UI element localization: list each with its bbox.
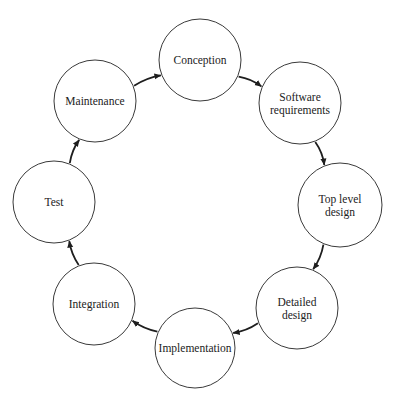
nodes: ConceptionSoftwarerequirementsTop leveld…: [13, 19, 382, 388]
software-requirements-label: Software: [279, 91, 321, 103]
implementation-label: Implementation: [159, 342, 232, 355]
top-level-design-label: Top level: [319, 193, 362, 206]
test-label: Test: [45, 196, 65, 208]
node-maintenance: Maintenance: [54, 60, 136, 142]
arrow-conception-to-software-requirements: [239, 77, 262, 87]
node-conception: Conception: [159, 19, 241, 101]
detailed-design-label: Detailed: [278, 296, 317, 308]
node-integration: Integration: [53, 263, 135, 345]
arrow-detailed-design-to-implementation: [233, 323, 258, 333]
arrow-top-level-design-to-detailed-design: [313, 245, 323, 270]
arrow-test-to-maintenance: [70, 140, 79, 163]
software-requirements-label: requirements: [270, 104, 331, 117]
node-implementation: Implementation: [155, 308, 235, 388]
arrow-software-requirements-to-top-level-design: [315, 142, 324, 165]
conception-label: Conception: [173, 54, 226, 67]
node-software-requirements: Softwarerequirements: [259, 62, 341, 144]
arrow-implementation-to-integration: [133, 321, 158, 332]
arrow-maintenance-to-conception: [134, 75, 161, 85]
life-cycle-diagram: ConceptionSoftwarerequirementsTop leveld…: [0, 0, 396, 403]
node-test: Test: [13, 161, 95, 243]
node-detailed-design: Detaileddesign: [256, 267, 338, 349]
detailed-design-label: design: [282, 309, 312, 322]
node-top-level-design: Top leveldesign: [298, 163, 382, 247]
integration-label: Integration: [69, 298, 120, 311]
arrow-integration-to-test: [69, 241, 78, 265]
maintenance-label: Maintenance: [65, 95, 124, 107]
top-level-design-label: design: [325, 206, 355, 219]
